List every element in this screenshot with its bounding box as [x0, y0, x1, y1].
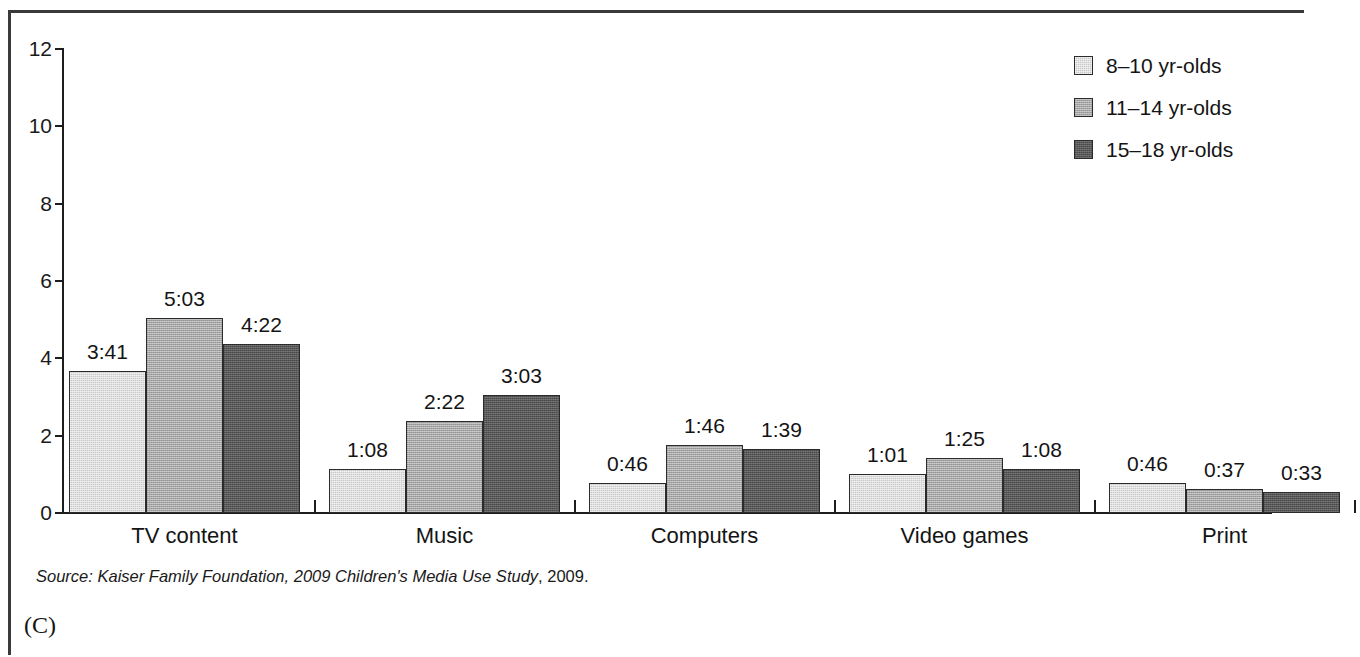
bar-value-label-0-0: 3:41 [55, 341, 160, 362]
legend-swatch-icon-2 [1074, 140, 1093, 159]
bar-1-2[interactable] [483, 395, 560, 513]
bar-4-2[interactable] [1263, 492, 1340, 513]
y-tick-10 [55, 125, 64, 127]
bar-4-1[interactable] [1186, 489, 1263, 513]
bar-0-1[interactable] [146, 318, 223, 513]
legend: 8–10 yr-olds 11–14 yr-olds 15–18 yr-olds [1074, 47, 1233, 173]
x-tick-0 [314, 500, 316, 513]
bar-0-0[interactable] [69, 371, 146, 513]
legend-item-1[interactable]: 11–14 yr-olds [1074, 89, 1233, 125]
y-tick-label-10: 10 [8, 115, 52, 136]
bar-value-label-0-1: 5:03 [132, 288, 237, 309]
y-tick-6 [55, 280, 64, 282]
x-tick-1 [574, 500, 576, 513]
y-tick-label-4: 4 [8, 347, 52, 368]
bar-3-0[interactable] [849, 474, 926, 513]
bar-value-label-4-2: 0:33 [1249, 462, 1354, 483]
y-tick-label-12: 12 [8, 38, 52, 59]
x-tick-4 [1354, 500, 1356, 513]
legend-label-1: 11–14 yr-olds [1106, 97, 1232, 118]
bar-value-label-0-2: 4:22 [209, 314, 314, 335]
bar-value-label-3-2: 1:08 [989, 439, 1094, 460]
y-tick-label-8: 8 [8, 193, 52, 214]
bar-3-1[interactable] [926, 458, 1003, 513]
panel-letter: (C) [24, 612, 56, 638]
bar-1-1[interactable] [406, 421, 483, 513]
bar-value-label-2-2: 1:39 [729, 419, 834, 440]
y-tick-8 [55, 203, 64, 205]
source-note: Source: Kaiser Family Foundation, 2009 C… [36, 567, 589, 585]
y-tick-0 [55, 512, 64, 514]
bar-value-label-1-0: 1:08 [315, 439, 420, 460]
bar-2-1[interactable] [666, 445, 743, 513]
bar-value-label-2-0: 0:46 [575, 453, 680, 474]
bar-value-label-1-2: 3:03 [469, 365, 574, 386]
bar-value-label-1-1: 2:22 [392, 391, 497, 412]
legend-swatch-icon-0 [1074, 56, 1093, 75]
legend-item-2[interactable]: 15–18 yr-olds [1074, 131, 1233, 167]
legend-label-2: 15–18 yr-olds [1106, 139, 1233, 160]
source-note-year: , 2009. [538, 567, 588, 585]
bar-2-0[interactable] [589, 483, 666, 513]
x-tick-2 [834, 500, 836, 513]
bar-1-0[interactable] [329, 469, 406, 513]
category-label-4: Print [1069, 524, 1360, 548]
bar-4-0[interactable] [1109, 483, 1186, 513]
bar-0-2[interactable] [223, 344, 300, 513]
bar-3-2[interactable] [1003, 469, 1080, 513]
legend-swatch-icon-1 [1074, 98, 1093, 117]
legend-label-0: 8–10 yr-olds [1106, 55, 1222, 76]
y-tick-2 [55, 435, 64, 437]
y-tick-label-6: 6 [8, 270, 52, 291]
x-tick-3 [1094, 500, 1096, 513]
bar-2-2[interactable] [743, 449, 820, 513]
y-tick-12 [55, 48, 64, 50]
y-tick-label-0: 0 [8, 502, 52, 523]
legend-item-0[interactable]: 8–10 yr-olds [1074, 47, 1233, 83]
source-note-italic: Source: Kaiser Family Foundation, 2009 C… [36, 567, 538, 585]
y-tick-label-2: 2 [8, 425, 52, 446]
